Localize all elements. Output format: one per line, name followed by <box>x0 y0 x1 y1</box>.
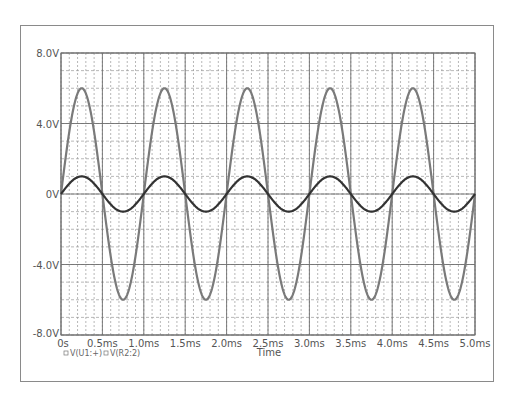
line-chart: 8.0V4.0V0V-4.0V-8.0V0s0.5ms1.0ms1.5ms2.0… <box>0 0 515 406</box>
x-tick-label: 1.5ms <box>170 338 201 349</box>
x-tick-label: 0s <box>57 338 69 349</box>
y-tick-label: 8.0V <box>36 48 59 59</box>
legend-marker-icon <box>104 351 108 355</box>
legend: V(U1:+)V(R2:2) <box>64 349 140 358</box>
x-tick-label: 2.0ms <box>211 338 242 349</box>
y-tick-label: -4.0V <box>33 260 60 271</box>
legend-item: V(R2:2) <box>110 349 140 358</box>
x-tick-label: 0.5ms <box>87 338 118 349</box>
y-tick-label: -8.0V <box>33 328 60 339</box>
x-tick-label: 5.0ms <box>460 338 491 349</box>
y-tick-label: 4.0V <box>36 119 59 130</box>
x-tick-label: 1.0ms <box>128 338 159 349</box>
legend-item: V(U1:+) <box>70 349 102 358</box>
legend-marker-icon <box>64 351 68 355</box>
x-tick-label: 3.5ms <box>335 338 366 349</box>
x-tick-label: 4.5ms <box>418 338 449 349</box>
y-tick-label: 0V <box>46 189 59 200</box>
x-tick-label: 3.0ms <box>294 338 325 349</box>
x-axis-label: Time <box>256 347 281 358</box>
x-tick-label: 4.0ms <box>377 338 408 349</box>
